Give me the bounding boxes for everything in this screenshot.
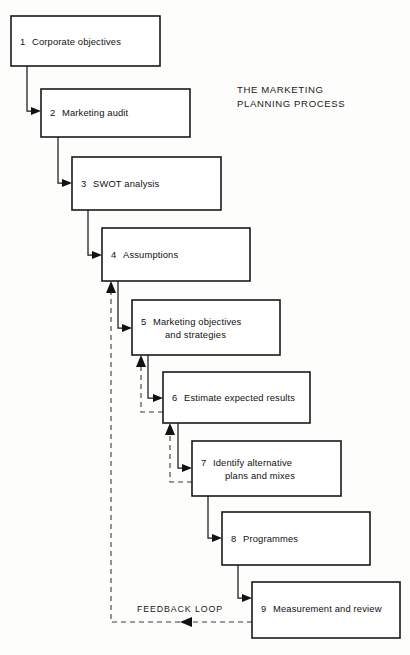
step-box-4[interactable]: 4 Assumptions xyxy=(102,228,250,281)
step-number-9: 9 xyxy=(261,603,266,614)
step-label-7-line2: plans and mixes xyxy=(225,470,295,481)
title-line-1: THE MARKETING xyxy=(237,84,324,95)
step-label-4: Assumptions xyxy=(123,249,178,260)
step-number-4: 4 xyxy=(111,249,116,260)
step-label-8: Programmes xyxy=(243,533,298,544)
step-label-1: Corporate objectives xyxy=(32,36,121,47)
marketing-planning-process-diagram: 1 Corporate objectives 2 Marketing audit… xyxy=(0,0,410,655)
step-number-1: 1 xyxy=(20,36,25,47)
step-box-7[interactable]: 7 Identify alternative plans and mixes xyxy=(192,441,341,496)
title-line-2: PLANNING PROCESS xyxy=(237,98,345,109)
connector-6-to-7 xyxy=(178,423,192,472)
step-box-8[interactable]: 8 Programmes xyxy=(222,512,370,565)
step-label-5-line1: Marketing objectives xyxy=(153,316,242,327)
connector-4-to-5 xyxy=(118,281,132,332)
step-label-3: SWOT analysis xyxy=(93,178,160,189)
step-label-5-line2: and strategies xyxy=(165,329,226,340)
diagram-title: THE MARKETING PLANNING PROCESS xyxy=(237,84,345,109)
step-box-2[interactable]: 2 Marketing audit xyxy=(41,89,190,137)
feedback-loop-label: FEEDBACK LOOP xyxy=(137,604,223,614)
step-label-9: Measurement and review xyxy=(273,603,382,614)
feedback-loop-6-to-5 xyxy=(136,355,163,412)
step-box-3[interactable]: 3 SWOT analysis xyxy=(72,157,221,210)
connector-3-to-4 xyxy=(88,210,102,259)
step-label-7-line1: Identify alternative xyxy=(213,457,292,468)
flowchart-canvas: 1 Corporate objectives 2 Marketing audit… xyxy=(0,0,410,655)
step-box-5[interactable]: 5 Marketing objectives and strategies xyxy=(132,300,280,355)
step-label-2: Marketing audit xyxy=(62,107,129,118)
step-label-6: Estimate expected results xyxy=(184,392,295,403)
step-box-6[interactable]: 6 Estimate expected results xyxy=(163,372,310,423)
step-number-8: 8 xyxy=(231,533,236,544)
connector-1-to-2 xyxy=(27,66,41,115)
step-number-3: 3 xyxy=(81,178,86,189)
connector-8-to-9 xyxy=(238,565,252,602)
step-number-2: 2 xyxy=(50,107,55,118)
connector-7-to-8 xyxy=(208,496,222,542)
step-number-6: 6 xyxy=(172,392,177,403)
step-box-1[interactable]: 1 Corporate objectives xyxy=(11,16,160,66)
connector-2-to-3 xyxy=(58,137,72,187)
step-number-7: 7 xyxy=(201,457,206,468)
step-number-5: 5 xyxy=(141,316,146,327)
connector-5-to-6 xyxy=(148,355,163,402)
step-box-9[interactable]: 9 Measurement and review xyxy=(252,582,400,638)
